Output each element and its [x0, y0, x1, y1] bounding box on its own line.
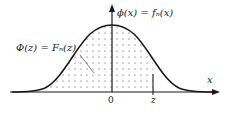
- origin-label: 0: [108, 95, 114, 105]
- z-label: z: [151, 95, 156, 105]
- cdf-label: Φ(z) = Fₙ(z): [16, 42, 76, 53]
- x-axis-label: x: [207, 74, 213, 85]
- pdf-label: ϕ(x) = fₙ(x): [117, 7, 173, 18]
- x-axis-arrow-icon: [212, 89, 220, 95]
- y-axis-arrow-icon: [109, 4, 115, 12]
